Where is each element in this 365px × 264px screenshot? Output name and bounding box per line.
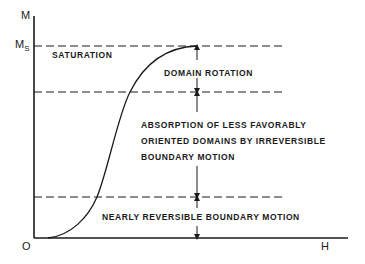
y-axis-label: M (21, 9, 30, 21)
label-irreversible-3: BOUNDARY MOTION (141, 152, 235, 162)
label-reversible: NEARLY REVERSIBLE BOUNDARY MOTION (102, 212, 300, 222)
x-axis-label: H (321, 240, 329, 252)
ms-label-main: M (15, 38, 24, 50)
label-saturation: SATURATION (52, 50, 112, 60)
origin-label: O (22, 240, 31, 252)
ms-label-sub: S (24, 44, 29, 53)
label-irreversible-2: ORIENTED DOMAINS BY IRREVERSIBLE (141, 136, 326, 146)
label-domain-rotation: DOMAIN ROTATION (164, 68, 253, 78)
magnetization-curve-diagram (0, 0, 365, 264)
label-irreversible-1: ABSORPTION OF LESS FAVORABLY (141, 120, 307, 130)
ms-label: MS (15, 38, 30, 53)
